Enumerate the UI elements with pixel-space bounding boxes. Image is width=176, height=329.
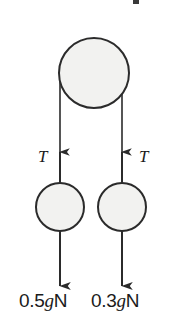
physics-diagram-figure: T T 0.5gN 0.3gN (0, 0, 176, 329)
tension-label-right: T (139, 148, 148, 165)
scan-artifact-mark (133, 0, 139, 4)
weight-label-right: 0.3gN (91, 291, 139, 310)
pulley-system-drawing (0, 0, 176, 329)
weight-left-unit: N (54, 290, 67, 311)
weight-right-value: 0.3 (91, 290, 117, 311)
tension-label-left: T (38, 148, 47, 165)
weight-label-left: 0.5gN (19, 291, 67, 310)
weight-right-g: g (117, 290, 126, 311)
right-mass-circle (98, 183, 146, 231)
weight-left-g: g (45, 290, 54, 311)
left-mass-circle (36, 183, 84, 231)
weight-right-unit: N (126, 290, 139, 311)
top-pulley-circle (59, 38, 129, 108)
weight-left-value: 0.5 (19, 290, 45, 311)
